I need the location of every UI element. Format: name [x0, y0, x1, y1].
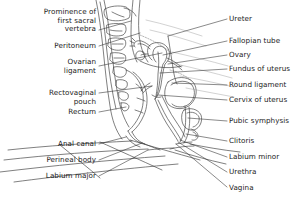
- anterior-abdominal-wall-inner: [139, 0, 148, 62]
- background-hatch-3: [180, 76, 234, 87]
- leader-labium-minor: [180, 140, 227, 157]
- leader-pubic-symphysis: [188, 118, 227, 121]
- label-cervix-of-uterus: Cervix of uterus: [229, 96, 287, 105]
- pubic-symphysis-inner: [187, 112, 199, 127]
- label-pubic-symphysis: Pubic symphysis: [229, 117, 289, 126]
- coccyx-segment-1: [116, 80, 127, 90]
- ovary-outline: [136, 51, 145, 60]
- label-vagina: Vagina: [229, 184, 254, 193]
- sacral-vertebra-body-5: [113, 67, 126, 78]
- leader-ureter: [168, 19, 227, 36]
- label-clitoris: Clitoris: [229, 137, 254, 146]
- floor-grid-diagonal-4: [175, 150, 226, 164]
- leader-labium-major: [99, 150, 148, 176]
- label-ovarian-ligament: Ovarian ligament: [64, 58, 96, 75]
- label-ovary: Ovary: [229, 51, 251, 60]
- background-hatch-4: [186, 88, 234, 97]
- background-hatch-5: [150, 30, 206, 46]
- label-labium-major: Labium major: [46, 172, 96, 181]
- leader-anal-canal: [99, 137, 126, 144]
- peritoneum-dotted-line: [140, 35, 172, 54]
- label-rectum: Rectum: [68, 108, 96, 117]
- label-round-ligament: Round ligament: [229, 81, 286, 90]
- label-anal-canal: Anal canal: [58, 140, 96, 149]
- label-urethra: Urethra: [229, 168, 257, 177]
- label-fundus-of-uterus: Fundus of uterus: [229, 65, 290, 74]
- leader-round-ligament: [172, 83, 227, 85]
- rectum-anterior-wall: [132, 72, 147, 132]
- label-peritoneum: Peritoneum: [54, 42, 96, 51]
- leader-fallopian-tube: [163, 41, 227, 55]
- background-hatch-6: [146, 20, 202, 36]
- leader-vagina: [176, 144, 227, 187]
- pubic-symphysis-outline: [182, 109, 202, 131]
- label-ureter: Ureter: [229, 15, 252, 24]
- coccyx-tip: [121, 103, 129, 111]
- iliac-shading-1: [112, 12, 124, 17]
- leader-fundus-of-uterus: [160, 69, 227, 73]
- label-prominence-of-first-sacral-vertebra: Prominence of first sacral vertebra: [44, 8, 96, 34]
- bladder-inner-wall: [171, 81, 194, 107]
- label-rectovaginal-pouch: Rectovaginal pouch: [49, 89, 96, 106]
- anatomy-figure: Prominence of first sacral vertebra Peri…: [0, 0, 293, 199]
- labium-major-line: [170, 146, 194, 149]
- anterior-abdominal-wall: [131, 0, 137, 62]
- leader-ovary: [168, 55, 227, 64]
- bladder-outline: [165, 78, 196, 109]
- rectal-fold-2: [137, 98, 145, 101]
- label-perineal-body: Perineal body: [46, 156, 96, 165]
- clitoris-inner: [193, 132, 196, 137]
- broad-ligament-fold: [140, 61, 182, 68]
- ovarian-ligament-line: [141, 54, 148, 55]
- vaginal-lumen-line: [158, 100, 181, 140]
- label-fallopian-tube: Fallopian tube: [229, 37, 280, 46]
- clitoris-outline: [191, 129, 198, 140]
- label-labium-minor: Labium minor: [229, 153, 279, 162]
- floor-grid-diagonal-1: [130, 140, 200, 160]
- floor-grid-line-4: [14, 164, 178, 182]
- leader-cervix-of-uterus: [158, 95, 227, 100]
- coccyx-segment-2: [119, 92, 128, 101]
- leader-ovarian-ligament: [99, 53, 162, 66]
- iliac-shading-2: [110, 30, 122, 31]
- ureter-line: [168, 36, 177, 84]
